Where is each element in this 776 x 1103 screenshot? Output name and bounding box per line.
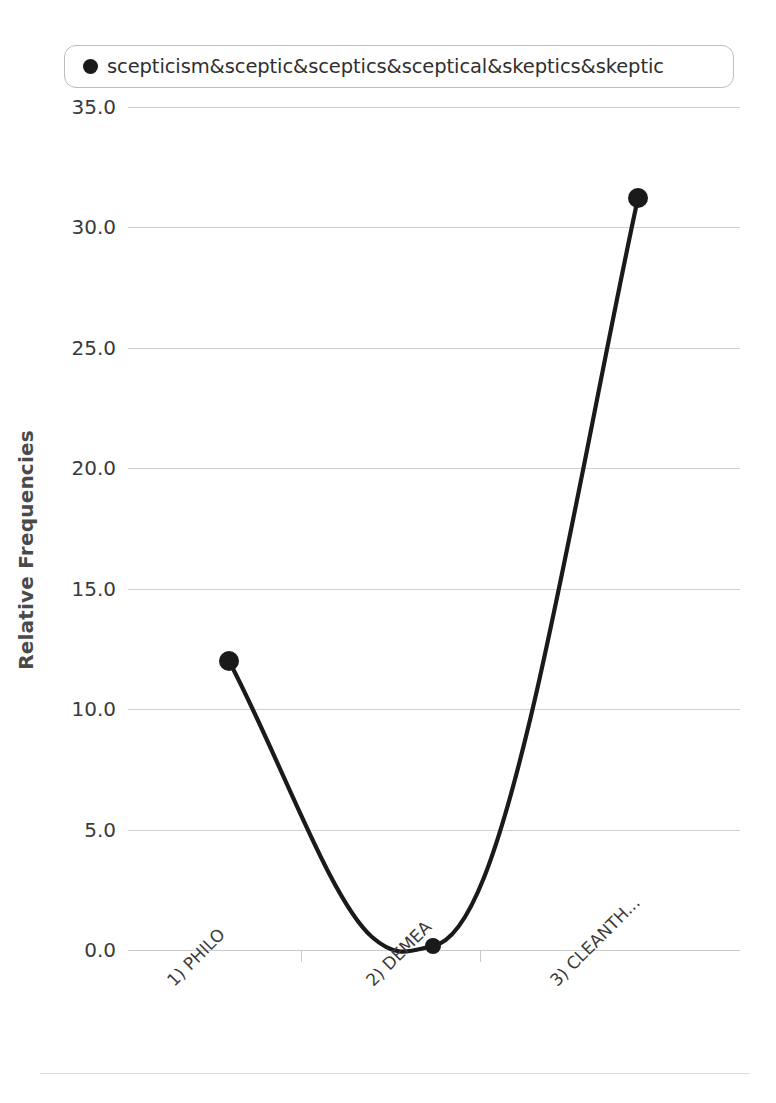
y-tick-30: 30.0 <box>18 215 128 239</box>
gridline-20 <box>128 468 740 469</box>
bottom-divider <box>40 1073 750 1074</box>
gridline-15 <box>128 589 740 590</box>
y-axis-title: Relative Frequencies <box>14 430 38 670</box>
gridline-30 <box>128 227 740 228</box>
y-tick-0: 0.0 <box>18 938 128 962</box>
x-tick-mark-2 <box>480 951 481 962</box>
y-tick-35: 35.0 <box>18 95 128 119</box>
x-axis-line <box>128 950 740 951</box>
gridline-35 <box>128 107 740 108</box>
plot-area <box>128 107 740 950</box>
chart-container: scepticism&sceptic&sceptics&sceptical&sk… <box>0 0 776 1103</box>
chart-legend[interactable]: scepticism&sceptic&sceptics&sceptical&sk… <box>64 45 734 88</box>
gridline-25 <box>128 348 740 349</box>
legend-series-label: scepticism&sceptic&sceptics&sceptical&sk… <box>107 55 664 78</box>
y-tick-25: 25.0 <box>18 336 128 360</box>
y-tick-10: 10.0 <box>18 697 128 721</box>
gridline-5 <box>128 830 740 831</box>
y-tick-5: 5.0 <box>18 818 128 842</box>
gridline-10 <box>128 709 740 710</box>
x-tick-mark-1 <box>301 951 302 962</box>
